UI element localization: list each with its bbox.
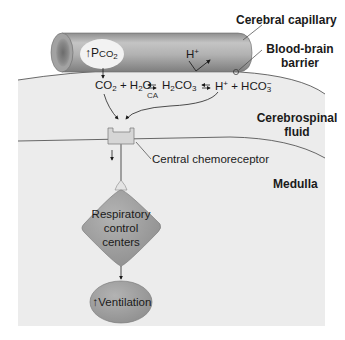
carbonic-acid: H2CO3 [162,79,196,93]
csf-label-line2: fluid [252,125,342,139]
eq-plus-hco3: + HCO [228,80,267,92]
eq-hco3-sup: − [267,79,272,88]
bbb-label-line1: Blood-brain [262,42,338,56]
medulla-label: Medulla [273,177,318,191]
carbonic-anhydrase-label: CA [147,91,158,100]
eq-plus-h: + H [117,79,138,91]
eq-h2co3-co: CO [175,79,192,91]
cerebral-capillary [51,33,252,72]
ventilation-text: ↑Ventilation [92,295,152,309]
blood-brain-barrier-label: Blood-brain barrier [262,42,338,70]
central-chemoreceptor-label: Central chemoreceptor [152,153,269,165]
csf-label-line1: Cerebrospinal [252,111,342,125]
control-centers-text: Respiratory control centers [86,207,156,249]
eq-h2co3-sub2: 3 [192,84,196,93]
pco2-subscript: 2 [113,52,117,61]
control-centers-line3: centers [86,235,156,249]
cerebral-capillary-label: Cerebral capillary [236,13,337,27]
co2-hydration-equation: CO2 + H2O [95,79,152,93]
eq-h2o-o: O [143,79,152,91]
control-centers-line1: Respiratory [86,207,156,221]
pco2-p: P [91,46,99,60]
eq-co2: CO [95,79,112,91]
h-charge: + [194,47,199,56]
h-plus-capillary-label: H+ [186,47,199,60]
pco2-co: CO [99,48,113,59]
ventilation-label: Ventilation [98,296,151,308]
dissociation-products: H+ + HCO3− [215,79,272,94]
bbb-label-line2: barrier [262,56,338,70]
pco2-label: ↑PCO2 [85,46,118,61]
control-centers-line2: control [86,221,156,235]
co2-chemoreceptor-diagram: Cerebral capillary Blood-brain barrier C… [0,0,345,340]
tissue-background [18,69,325,326]
capillary-leader-line [243,25,262,40]
cerebrospinal-fluid-label: Cerebrospinal fluid [252,111,342,139]
